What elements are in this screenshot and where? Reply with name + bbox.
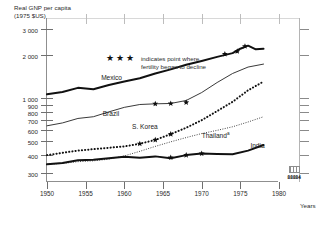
logo-mark-icon: [289, 166, 300, 173]
y-tick-right: [300, 98, 309, 99]
publisher-logo: 88884: [287, 166, 301, 180]
x-tick: [86, 182, 87, 189]
fertility-decline-star-icon: [152, 101, 158, 107]
y-tick-label: 300: [28, 171, 38, 178]
footnote-marker: a: [227, 131, 230, 136]
x-axis-title: Years: [300, 202, 316, 209]
x-tick-label: 1950: [40, 190, 54, 197]
y-tick-label: 800: [28, 109, 38, 116]
y-tick-right: [300, 112, 309, 113]
x-tick-label: 1965: [156, 190, 170, 197]
x-tick: [163, 182, 164, 189]
series-label-s-korea: S. Korea: [132, 123, 158, 130]
legend: ★★★ indicates point where fertility bega…: [106, 54, 206, 71]
y-tick-right: [300, 120, 309, 121]
y-tick-label: 600: [28, 127, 38, 134]
x-tick-label: 1955: [79, 190, 93, 197]
fertility-decline-star-icon: [183, 99, 189, 105]
y-tick-label: 500: [28, 139, 38, 146]
y-tick-label: 400: [28, 153, 38, 160]
x-tick: [240, 182, 241, 189]
x-tick-label: 1960: [117, 190, 131, 197]
chart-figure: Real GNP per capita (1975 $US) 3 0002 00…: [0, 0, 328, 228]
y-tick-right: [300, 173, 309, 174]
series-label-india: India: [250, 142, 264, 149]
y-axis-title-line2: (1975 $US): [14, 12, 46, 19]
legend-caption: indicates point where fertility began to…: [141, 54, 206, 71]
x-tick: [124, 182, 125, 189]
x-tick: [47, 182, 48, 189]
x-grid-tick: [279, 14, 280, 24]
x-tick-label: 1980: [272, 190, 286, 197]
fertility-decline-star-icon: [168, 131, 174, 137]
fertility-decline-star-icon: [168, 100, 174, 106]
x-tick-label: 1970: [195, 190, 209, 197]
y-tick-right: [300, 130, 309, 131]
fertility-decline-star-icon: [183, 152, 189, 158]
y-tick-right: [300, 155, 309, 156]
right-border: [299, 18, 300, 182]
fertility-decline-star-icon: [199, 150, 205, 156]
y-tick-right: [300, 55, 309, 56]
y-tick-label: 900: [28, 102, 38, 109]
logo-code: 88884: [287, 174, 301, 180]
series-label-thailand: Thailanda: [202, 131, 230, 139]
y-tick-label: 3 000: [23, 27, 38, 34]
star-marker-icon: ★★★: [106, 54, 136, 63]
plot-area: 3 0002 0001 000900800700600500400300 195…: [46, 18, 278, 182]
series-line-india: [47, 145, 264, 164]
y-tick-label: 700: [28, 118, 38, 125]
series-label-thailand-text: Thailand: [202, 133, 227, 140]
fertility-decline-star-icon: [137, 141, 143, 147]
fertility-decline-star-icon: [152, 137, 158, 143]
y-axis-title-line1: Real GNP per capita: [14, 4, 71, 11]
series-label-mexico: Mexico: [101, 74, 122, 81]
series-label-brazil: Brazil: [103, 110, 120, 117]
x-tick: [202, 182, 203, 189]
y-tick-right: [300, 105, 309, 106]
x-tick: [279, 182, 280, 189]
y-tick-right: [300, 141, 309, 142]
y-tick-label: 2 000: [23, 52, 38, 59]
x-tick-label: 1975: [233, 190, 247, 197]
series-curves: [47, 18, 279, 182]
y-tick-right: [300, 29, 309, 30]
